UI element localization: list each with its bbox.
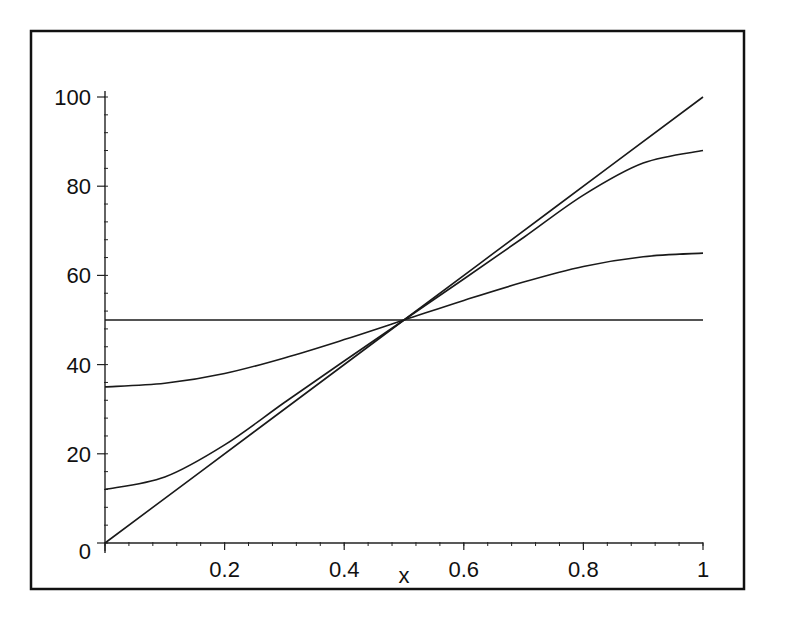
curves (105, 97, 703, 543)
chart: 0204060801000.20.40.60.81x (0, 0, 799, 642)
chart-frame (31, 31, 744, 589)
x-tick-label: 0.8 (568, 557, 599, 582)
x-tick-label: 0.4 (329, 557, 360, 582)
x-tick-label: 1 (697, 557, 709, 582)
y-tick-label: 20 (67, 442, 91, 467)
y-tick-label: 40 (67, 353, 91, 378)
x-axis-label: x (399, 563, 410, 588)
y-tick-label: 0 (79, 539, 91, 564)
chart-frame-full (31, 31, 376, 285)
y-tick-label: 100 (54, 85, 91, 110)
x-tick-label: 0.2 (209, 557, 240, 582)
x-tick-label: 0.6 (449, 557, 480, 582)
y-tick-label: 60 (67, 263, 91, 288)
y-tick-label: 80 (67, 174, 91, 199)
